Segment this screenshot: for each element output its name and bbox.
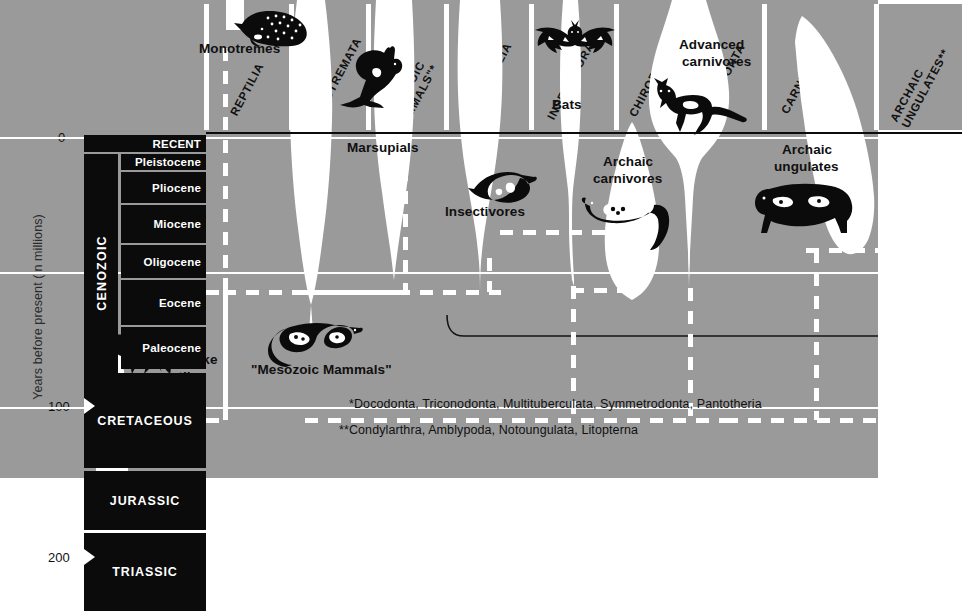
dash-basal-spine-right: [725, 418, 878, 423]
dash-vertical-link: [223, 290, 228, 422]
dash-ungulates-descent: [814, 250, 819, 420]
kangaroo-silhouette: [340, 45, 412, 119]
label-archaic-ungulates-2: ungulates: [774, 159, 839, 174]
label-archaic-ungulates-1: Archaic: [782, 142, 832, 157]
epoch-paleocene: Paleocene: [121, 327, 206, 369]
uintathere-silhouette: [755, 175, 853, 237]
notch-200my: [84, 549, 95, 565]
epoch-pleistocene: Pleistocene: [121, 154, 206, 170]
epoch-recent: RECENT: [84, 135, 206, 152]
dash-marsupialia-descent: [403, 168, 408, 292]
label-monotremes: Monotremes: [199, 41, 280, 56]
label-archaic-carnivores-2: carnivores: [593, 171, 662, 186]
y-tick-200: 200: [48, 550, 70, 565]
label-insectivores: Insectivores: [445, 204, 525, 219]
dash-to-ungulates: [806, 248, 878, 253]
label-advanced-carnivores-1: Advanced: [679, 37, 744, 52]
period-cretaceous: CRETACEOUS: [84, 373, 206, 468]
label-bats: Bats: [552, 97, 582, 112]
geologic-time-scale: CENOZOIC RECENT Pleistocene Pliocene Mio…: [84, 133, 206, 611]
epoch-miocene: Miocene: [121, 205, 206, 243]
period-triassic: TRIASSIC: [84, 533, 206, 611]
era-cenozoic: CENOZOIC: [84, 154, 118, 399]
epoch-eocene: Eocene: [121, 280, 206, 325]
period-jurassic: JURASSIC: [84, 471, 206, 530]
shrew-silhouette: [468, 167, 538, 207]
label-marsupials: Marsupials: [347, 140, 419, 155]
dash-insectivora-descent: [487, 258, 492, 292]
notch-100my: [84, 398, 95, 414]
bat-silhouette: [535, 20, 615, 64]
evolution-chart-figure: Years before present (in millions) 0 100…: [0, 0, 962, 611]
creodont-silhouette: [580, 190, 676, 252]
footnote-1: *Docodonta, Triconodonta, Multitubercula…: [349, 397, 762, 411]
dash-to-chiroptera: [571, 288, 637, 293]
spindle-insectivores: [458, 0, 503, 300]
label-mesozoic-mammals: "Mesozoic Mammals": [251, 362, 392, 377]
epoch-oligocene: Oligocene: [121, 245, 206, 278]
epoch-pliocene: Pliocene: [121, 172, 206, 203]
footnote-2: **Condylarthra, Amblypoda, Notoungulata,…: [339, 423, 638, 437]
rule-zero-my: [206, 132, 962, 134]
dash-to-insectivora: [305, 290, 501, 295]
label-archaic-carnivores-1: Archaic: [603, 154, 653, 169]
label-advanced-carnivores-2: carnivores: [682, 54, 751, 69]
era-cenozoic-label: CENOZOIC: [95, 151, 109, 396]
fox-silhouette: [650, 78, 748, 138]
